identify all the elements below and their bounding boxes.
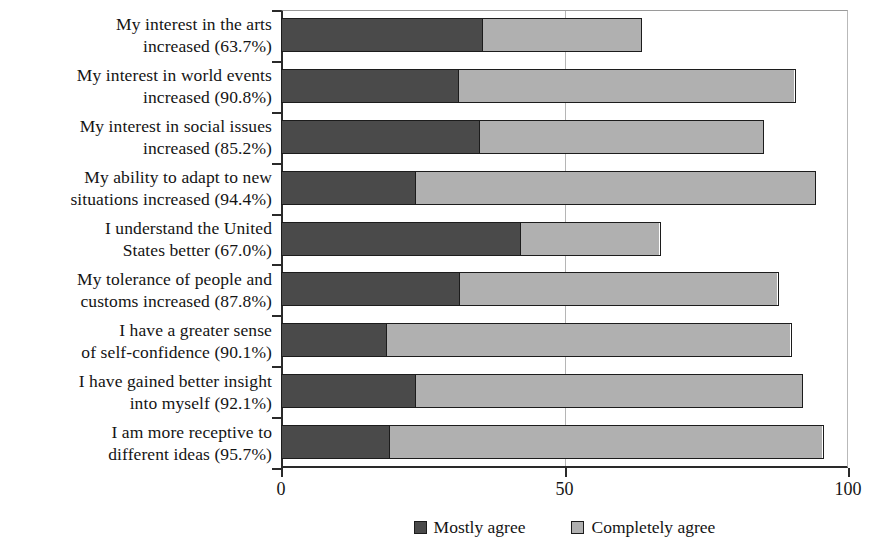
bar-rows (281, 10, 848, 468)
x-axis-tick (281, 468, 283, 477)
legend-label: Completely agree (591, 517, 715, 537)
y-axis-tick (272, 214, 281, 216)
x-axis-tick-labels: 050100 (281, 477, 848, 503)
y-axis-tick (272, 264, 281, 266)
bar-segment-mostly-agree[interactable] (282, 172, 415, 204)
bar-segment-mostly-agree[interactable] (282, 426, 389, 458)
y-axis-tick (272, 112, 281, 114)
bar-segment-mostly-agree[interactable] (282, 273, 460, 305)
stacked-bar[interactable] (281, 120, 764, 154)
bar-segment-mostly-agree[interactable] (282, 375, 415, 407)
bar-segment-mostly-agree[interactable] (282, 70, 458, 102)
bar-row (281, 10, 848, 61)
x-axis-tick-label: 50 (556, 477, 574, 501)
bar-segment-completely-agree[interactable] (458, 70, 795, 102)
legend-item[interactable]: Completely agree (571, 517, 715, 537)
y-axis-tick (272, 61, 281, 63)
x-axis-tick (565, 468, 567, 477)
bar-segment-mostly-agree[interactable] (282, 223, 520, 255)
stacked-bar[interactable] (281, 18, 642, 52)
bar-segment-completely-agree[interactable] (415, 172, 815, 204)
chart-legend: Mostly agreeCompletely agree (281, 512, 848, 542)
stacked-bar-chart: My interest in the arts increased (63.7%… (0, 0, 880, 557)
legend-label: Mostly agree (434, 517, 526, 537)
category-label: My interest in the arts increased (63.7%… (0, 13, 272, 57)
y-axis-tick (272, 163, 281, 165)
bar-segment-completely-agree[interactable] (520, 223, 660, 255)
bar-row (281, 366, 848, 417)
stacked-bar[interactable] (281, 323, 792, 357)
bar-row (281, 214, 848, 265)
category-label: I understand the United States better (6… (0, 217, 272, 261)
y-axis-tick (272, 468, 281, 470)
category-label: My interest in social issues increased (… (0, 115, 272, 159)
bar-segment-completely-agree[interactable] (479, 121, 762, 153)
y-axis-tick (272, 10, 281, 12)
bar-segment-mostly-agree[interactable] (282, 19, 483, 51)
bar-row (281, 61, 848, 112)
stacked-bar[interactable] (281, 69, 796, 103)
stacked-bar[interactable] (281, 374, 803, 408)
bar-segment-completely-agree[interactable] (459, 273, 777, 305)
legend-swatch-icon (414, 521, 427, 534)
x-axis-tick (848, 468, 850, 477)
stacked-bar[interactable] (281, 222, 661, 256)
legend-swatch-icon (571, 521, 584, 534)
bar-segment-completely-agree[interactable] (386, 324, 790, 356)
y-axis-tick (272, 366, 281, 368)
category-label: My ability to adapt to new situations in… (0, 166, 272, 210)
y-axis-tick (272, 315, 281, 317)
x-axis-tick-label: 100 (835, 477, 862, 501)
bar-segment-completely-agree[interactable] (389, 426, 822, 458)
bar-segment-mostly-agree[interactable] (282, 121, 480, 153)
bar-segment-completely-agree[interactable] (482, 19, 640, 51)
stacked-bar[interactable] (281, 171, 816, 205)
bar-segment-mostly-agree[interactable] (282, 324, 386, 356)
bar-row (281, 163, 848, 214)
stacked-bar[interactable] (281, 425, 824, 459)
x-axis-ticks (281, 468, 848, 477)
stacked-bar[interactable] (281, 272, 779, 306)
bar-row (281, 315, 848, 366)
category-label: I am more receptive to different ideas (… (0, 421, 272, 465)
x-axis-tick-label: 0 (277, 477, 286, 501)
category-label: My tolerance of people and customs incre… (0, 268, 272, 312)
legend-item[interactable]: Mostly agree (414, 517, 526, 537)
bar-row (281, 264, 848, 315)
category-label: I have a greater sense of self-confidenc… (0, 319, 272, 363)
bar-row (281, 417, 848, 468)
y-axis-tick (272, 417, 281, 419)
category-label: My interest in world events increased (9… (0, 64, 272, 108)
category-label: I have gained better insight into myself… (0, 370, 272, 414)
bar-segment-completely-agree[interactable] (415, 375, 802, 407)
bar-row (281, 112, 848, 163)
category-axis-labels: My interest in the arts increased (63.7%… (0, 10, 272, 468)
